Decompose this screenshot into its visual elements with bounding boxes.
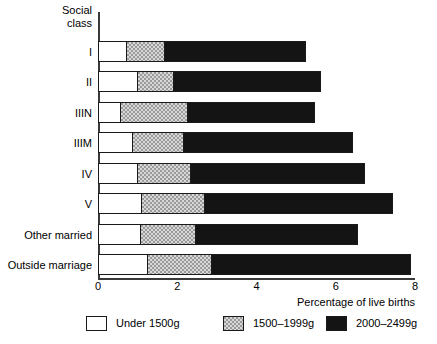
- stacked-bar: [98, 71, 321, 92]
- bar-segment: [140, 224, 196, 245]
- category-label: I: [89, 46, 92, 58]
- y-axis-title: Social class: [18, 4, 92, 30]
- stacked-bar: [98, 193, 393, 214]
- stacked-bar: [98, 102, 315, 123]
- x-axis-title: Percentage of live births: [297, 296, 415, 309]
- legend-label: 2000–2499g: [356, 317, 417, 330]
- plot-area: IIIIIINIIIMIVVOther marriedOutside marri…: [98, 30, 415, 278]
- stacked-bar: [98, 224, 358, 245]
- category-label: II: [86, 76, 92, 88]
- bar-segment: [137, 163, 191, 184]
- legend-item: 1500–1999g: [223, 316, 314, 331]
- stacked-bar: [98, 254, 411, 275]
- bar-segment: [132, 132, 184, 153]
- legend-item: Under 1500g: [86, 316, 180, 331]
- bar-segment: [183, 132, 353, 153]
- x-tick-label: 6: [333, 280, 339, 293]
- bar-segment: [147, 254, 212, 275]
- low-birthweight-stacked-bar-chart: Social class IIIIIINIIIMIVVOther married…: [0, 0, 437, 344]
- bar-segment: [137, 71, 174, 92]
- bar-segment: [187, 102, 315, 123]
- bar-segment: [120, 102, 189, 123]
- category-label: V: [85, 198, 92, 210]
- bar-segment: [98, 224, 141, 245]
- legend-item: 2000–2499g: [326, 316, 417, 331]
- stacked-bar: [98, 41, 306, 62]
- legend-swatch: [326, 316, 347, 331]
- stacked-bar: [98, 132, 353, 153]
- x-tick-label: 8: [412, 280, 418, 293]
- bar-segment: [98, 163, 138, 184]
- legend-swatch: [223, 316, 244, 331]
- category-label: IV: [82, 168, 92, 180]
- stacked-bar: [98, 163, 365, 184]
- bar-segment: [98, 254, 148, 275]
- bar-segment: [98, 71, 138, 92]
- bar-segment: [126, 41, 166, 62]
- bar-segment: [98, 41, 127, 62]
- chart-legend: Under 1500g1500–1999g2000–2499g: [86, 316, 416, 336]
- bar-segment: [190, 163, 365, 184]
- bar-segment: [195, 224, 358, 245]
- x-tick-label: 4: [253, 280, 259, 293]
- x-tick-label: 2: [174, 280, 180, 293]
- bar-segment: [173, 71, 321, 92]
- category-label: IIIM: [74, 137, 92, 149]
- category-label: Other married: [24, 229, 92, 241]
- bar-segment: [98, 132, 133, 153]
- bar-segment: [98, 193, 142, 214]
- bar-segment: [204, 193, 393, 214]
- bar-segment: [164, 41, 305, 62]
- legend-label: 1500–1999g: [253, 317, 314, 330]
- legend-label: Under 1500g: [116, 317, 180, 330]
- category-label: IIIN: [75, 107, 92, 119]
- bar-segment: [98, 102, 121, 123]
- legend-swatch: [86, 316, 107, 331]
- x-tick-label: 0: [95, 280, 101, 293]
- bar-segment: [141, 193, 206, 214]
- category-label: Outside marriage: [8, 259, 92, 271]
- bar-segment: [211, 254, 411, 275]
